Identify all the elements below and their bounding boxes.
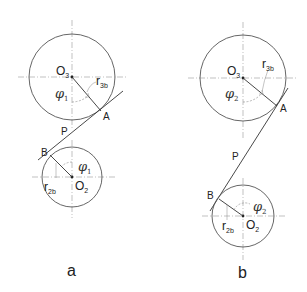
radius-r2b-b [219,199,243,216]
label-pitch-point-a: P [61,126,68,137]
label-phi-upper-a: φ1 [55,86,69,103]
caption-b: b [238,264,247,281]
label-r3b-b: r3b [262,57,274,72]
label-point-b-b: B [207,190,214,201]
label-r2b-b: r2b [222,219,234,234]
angle-arc-phi-upper-b [243,93,262,102]
angle-arc-phi-lower-b [234,203,250,210]
angle-arc-phi-lower-a [62,162,72,166]
radius-r2b-a [50,155,72,177]
label-o3-b: O3 [227,64,240,79]
label-point-a-b: A [280,103,287,114]
label-r3b-a: r3b [96,74,108,89]
r3b-leader-b [262,70,268,92]
diagram-b: O3 r3b φ2 A P B φ2 r2b O2 b [188,22,298,281]
gear-tangent-diagram: O3 r3b φ1 A P B φ1 r2b O2 a O3 r3b φ2 [0,0,307,292]
r3b-leader-a [87,82,96,92]
line-of-action-b [210,88,288,211]
caption-a: a [67,262,76,279]
label-r2b-a: r2b [44,180,56,195]
label-phi-lower-b: φ2 [253,199,267,216]
label-o2-b: O2 [246,218,259,233]
label-phi-lower-a: φ1 [78,159,92,176]
label-point-a-a: A [103,111,110,122]
label-o2-a: O2 [75,179,88,194]
label-o3-a: O3 [56,64,69,79]
line-of-action-a [38,91,123,160]
label-phi-upper-b: φ2 [225,86,239,103]
diagram-a: O3 r3b φ1 A P B φ1 r2b O2 a [18,20,128,279]
label-pitch-point-b: P [232,151,239,162]
label-point-b-a: B [41,147,48,158]
